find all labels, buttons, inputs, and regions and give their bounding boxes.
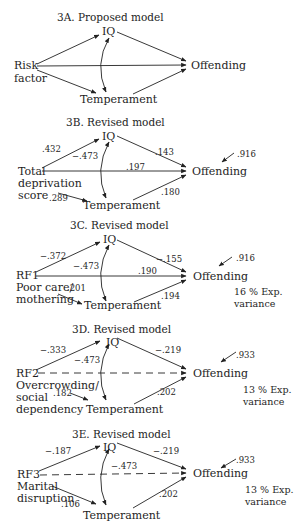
node-risk-line1: Total	[18, 166, 46, 177]
node-risk-line1: RF1	[16, 270, 39, 281]
node-risk-line2: Poor care/	[16, 282, 73, 293]
node-risk-line1: RF3	[17, 469, 40, 480]
coef-iq-temperament: −.473	[72, 152, 98, 161]
explained-variance-line2: variance	[245, 497, 286, 507]
explained-variance-line2: variance	[243, 397, 284, 407]
coef-risk-to-temperament: .106	[61, 500, 80, 509]
path-diagram-figure: 3A. Proposed model IQ Risk factor Offend…	[0, 0, 300, 531]
node-offending: Offending	[192, 166, 247, 177]
node-risk-line2: Marital	[17, 481, 58, 492]
residual-offending: .916	[236, 254, 255, 263]
node-risk-factor-line2: factor	[14, 73, 47, 84]
coef-risk-to-temperament: .289	[49, 194, 68, 203]
coef-iq-to-offending: −.155	[156, 255, 182, 264]
node-risk-line3: score	[18, 190, 48, 201]
panel-title: 3B. Revised model	[66, 117, 165, 128]
node-iq: IQ	[102, 26, 115, 37]
coef-risk-to-iq: −.372	[40, 252, 66, 261]
node-risk-line3: social	[16, 392, 48, 403]
panel-title: 3A. Proposed model	[57, 12, 164, 23]
panel-title: 3D. Revised model	[72, 324, 171, 335]
node-temperament: Temperament	[83, 510, 160, 521]
coef-risk-to-iq: −.187	[45, 447, 71, 456]
node-risk-line3: mothering	[16, 294, 74, 305]
coef-iq-to-offending: .143	[155, 148, 174, 157]
node-risk-line1: RF2	[16, 368, 39, 379]
coef-risk-to-iq: .432	[42, 145, 61, 154]
coef-iq-to-offending: −.219	[153, 447, 179, 456]
node-temperament: Temperament	[80, 94, 157, 105]
panel-title: 3E. Revised model	[72, 429, 171, 440]
node-temperament: Temperament	[84, 300, 161, 311]
residual-offending: .933	[236, 456, 255, 465]
coef-risk-to-temperament: .201	[67, 284, 86, 293]
explained-variance-line1: 16 % Exp.	[234, 287, 283, 297]
coef-temperament-to-offending: .202	[157, 388, 176, 397]
residual-offending: .933	[236, 351, 255, 360]
coef-temperament-to-offending: .194	[161, 292, 180, 301]
node-temperament: Temperament	[86, 404, 163, 415]
coef-risk-to-offending: .197	[126, 163, 145, 172]
node-offending: Offending	[193, 468, 248, 479]
panel-title: 3C. Revised model	[70, 220, 169, 231]
explained-variance-line1: 13 % Exp.	[245, 485, 294, 495]
coef-risk-to-temperament: .182	[53, 389, 72, 398]
coef-risk-to-iq: −.333	[40, 346, 66, 355]
node-offending: Offending	[191, 60, 246, 71]
node-offending: Offending	[193, 271, 248, 282]
node-temperament: Temperament	[83, 200, 160, 211]
node-risk-line4: dependency	[16, 404, 83, 415]
coef-temperament-to-offending: .202	[159, 490, 178, 499]
residual-offending: .916	[237, 150, 256, 159]
node-risk-line2: deprivation	[18, 178, 82, 189]
coef-risk-to-offending: .190	[138, 267, 157, 276]
coef-iq-temperament: −.473	[74, 356, 100, 365]
node-iq: IQ	[102, 131, 115, 142]
node-risk-factor-line1: Risk	[14, 60, 38, 71]
node-iq: IQ	[103, 234, 116, 245]
coef-temperament-to-offending: .180	[161, 188, 180, 197]
node-iq: IQ	[103, 442, 116, 453]
node-offending: Offending	[193, 368, 248, 379]
coef-iq-temperament: −.473	[111, 462, 137, 471]
explained-variance-line2: variance	[234, 299, 275, 309]
coef-iq-temperament: −.473	[73, 262, 99, 271]
node-iq: IQ	[106, 337, 119, 348]
panel-3a-edges	[37, 32, 186, 94]
explained-variance-line1: 13 % Exp.	[243, 385, 292, 395]
coef-iq-to-offending: −.219	[155, 346, 181, 355]
